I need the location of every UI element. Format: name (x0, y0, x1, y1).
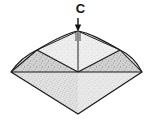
apex-label-c: C (0, 2, 147, 16)
gem-diagram (0, 0, 147, 123)
pointer-arrow-head (75, 25, 81, 32)
figure-container: C (0, 0, 147, 123)
